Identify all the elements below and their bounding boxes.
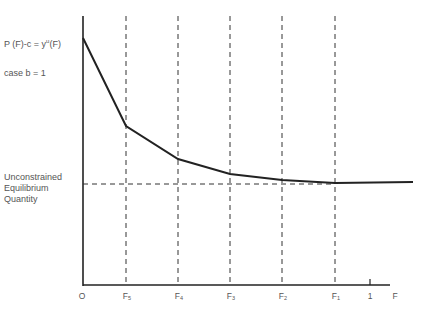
tick-label-f4: F4 <box>175 291 183 301</box>
origin-label: O <box>79 291 86 301</box>
tick-label-f1: F1 <box>332 291 340 301</box>
vertical-dashed-lines <box>126 16 335 285</box>
yu-curve <box>83 38 413 183</box>
tick-label-f2: F2 <box>279 291 287 301</box>
x-axis-label: F <box>392 291 397 301</box>
reference-label: Unconstrained Equilibrium Quantity <box>4 172 62 205</box>
diagram-canvas <box>0 0 423 315</box>
tick-label-one: 1 <box>368 291 373 301</box>
case-label: case b = 1 <box>4 68 46 79</box>
tick-label-f3: F3 <box>227 291 235 301</box>
tick-label-f5: F5 <box>123 291 131 301</box>
y-axis-label: P (F)-c = yu(F) <box>4 36 61 50</box>
